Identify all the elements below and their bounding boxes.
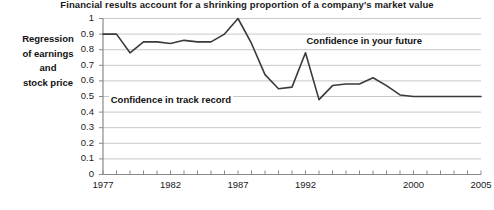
y-axis-tick-label: 0.2 [72, 137, 94, 148]
chart-annotation-label: Confidence in your future [305, 35, 425, 46]
x-axis-tick-label: 2005 [461, 179, 494, 190]
y-axis-tick-label: 0.8 [72, 43, 94, 54]
y-axis-tick-label: 0.7 [72, 59, 94, 70]
y-axis-tick-label: 0.1 [72, 152, 94, 163]
x-axis-tick-label: 1992 [286, 179, 326, 190]
y-axis-tick-label: 0.4 [72, 106, 94, 117]
x-axis-tick-label: 1987 [218, 179, 258, 190]
y-axis-tick-label: 0 [72, 168, 94, 179]
chart-plot-area: 10.90.80.70.60.50.40.30.20.10 1977198219… [0, 0, 494, 210]
x-axis-tick-label: 1982 [151, 179, 191, 190]
y-axis-tick-label: 0.3 [72, 121, 94, 132]
x-axis-tick-label: 1977 [83, 179, 123, 190]
y-axis-tick-label: 0.6 [72, 74, 94, 85]
y-axis-tick-label: 0.9 [72, 28, 94, 39]
data-series-line [103, 19, 481, 100]
chart-annotation-label: Confidence in track record [109, 94, 233, 105]
y-axis-tick-label: 0.5 [72, 90, 94, 101]
x-axis-tick-label: 2000 [394, 179, 434, 190]
y-axis-tick-label: 1 [72, 12, 94, 23]
